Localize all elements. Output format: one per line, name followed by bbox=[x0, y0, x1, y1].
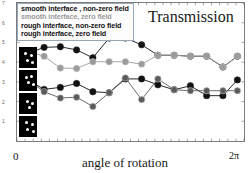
speckle-inset-2 bbox=[19, 70, 37, 91]
data-point bbox=[41, 89, 47, 95]
data-point bbox=[73, 47, 79, 53]
data-point bbox=[138, 42, 144, 48]
data-point bbox=[41, 44, 47, 50]
data-point bbox=[171, 52, 177, 58]
speckle-inset-4 bbox=[19, 116, 37, 137]
data-point bbox=[203, 88, 209, 94]
data-point bbox=[90, 89, 96, 95]
chart-legend: smooth interface , non-zero field smooth… bbox=[17, 3, 134, 41]
x-axis-label: angle of rotation bbox=[0, 155, 250, 171]
data-point bbox=[57, 95, 63, 101]
speckle-dot bbox=[26, 59, 29, 62]
data-point bbox=[41, 53, 47, 59]
speckle-inset-3 bbox=[19, 93, 37, 114]
data-point bbox=[90, 59, 96, 65]
speckle-dot bbox=[30, 75, 33, 78]
speckle-dot bbox=[26, 128, 29, 131]
data-point bbox=[138, 76, 144, 82]
y-tick-label: 5 bbox=[2, 39, 5, 45]
data-point bbox=[155, 82, 161, 88]
speckle-dot bbox=[27, 81, 30, 84]
y-tick-label: 6 bbox=[2, 20, 5, 26]
speckle-dot bbox=[25, 121, 28, 124]
speckle-dot bbox=[31, 102, 34, 105]
y-tick-label: 3 bbox=[2, 79, 5, 85]
y-tick-label: 2 bbox=[2, 99, 5, 105]
data-point bbox=[234, 53, 240, 59]
data-point bbox=[220, 64, 226, 70]
speckle-dot bbox=[31, 123, 34, 126]
speckle-dot bbox=[26, 100, 29, 103]
data-point bbox=[234, 77, 240, 83]
y-tick-label: 1 bbox=[2, 118, 5, 124]
speckle-dot bbox=[32, 130, 35, 133]
chart-figure: Transmission smooth interface , non-zero… bbox=[0, 0, 250, 173]
data-point bbox=[155, 76, 161, 82]
data-point bbox=[171, 87, 177, 93]
speckle-dot bbox=[24, 52, 27, 55]
data-point bbox=[203, 53, 209, 59]
data-point bbox=[73, 65, 79, 71]
data-point bbox=[73, 94, 79, 100]
data-point bbox=[187, 88, 193, 94]
speckle-dot bbox=[25, 76, 28, 79]
data-point bbox=[106, 59, 112, 65]
data-point bbox=[57, 44, 63, 50]
chart-title: Transmission bbox=[148, 8, 234, 26]
data-point bbox=[57, 65, 63, 71]
data-point bbox=[122, 75, 128, 81]
data-point bbox=[234, 88, 240, 94]
data-point bbox=[138, 96, 144, 102]
data-point bbox=[90, 103, 96, 109]
data-point bbox=[122, 59, 128, 65]
speckle-dot bbox=[31, 61, 34, 64]
y-tick-label: 4 bbox=[2, 59, 5, 65]
y-tick-label: 7 bbox=[2, 0, 5, 6]
data-point bbox=[57, 84, 63, 90]
data-point bbox=[73, 80, 79, 86]
data-point bbox=[106, 90, 112, 96]
speckle-dot bbox=[30, 54, 33, 57]
x-tick-label-min: 0 bbox=[13, 150, 19, 162]
data-point bbox=[220, 88, 226, 94]
data-point bbox=[155, 52, 161, 58]
speckle-dot bbox=[28, 106, 31, 109]
legend-item-rough-zero: rough interface, zero field bbox=[21, 30, 131, 38]
speckle-dot bbox=[32, 83, 35, 86]
x-tick-label-max: 2π bbox=[229, 150, 239, 161]
data-point bbox=[187, 53, 193, 59]
data-point bbox=[138, 61, 144, 67]
speckle-inset-1 bbox=[19, 47, 37, 68]
